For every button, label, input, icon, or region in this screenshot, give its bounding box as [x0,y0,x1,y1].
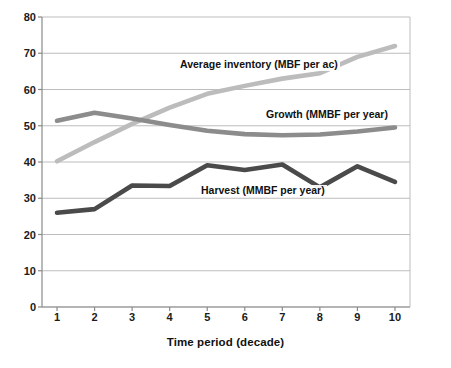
series-label-average-inventory: Average inventory (MBF per ac) [178,59,340,71]
y-tick-label: 30 [6,193,36,204]
x-tick-label: 9 [337,312,377,323]
y-tick-label: 0 [6,302,36,313]
y-tick-label: 50 [6,120,36,131]
y-tick-label: 70 [6,48,36,59]
x-axis-title: Time period (decade) [0,336,451,348]
series-label-harvest: Harvest (MMBF per year) [199,185,327,197]
x-tick-label: 8 [300,312,340,323]
x-tick-label: 2 [75,312,115,323]
y-tick-label: 60 [6,84,36,95]
series-label-growth: Growth (MMBF per year) [264,109,390,121]
x-tick-label: 4 [150,312,190,323]
x-tick-label: 1 [37,312,77,323]
x-tick-label: 7 [262,312,302,323]
line-chart: 01020304050607080 12345678910 Time perio… [0,0,451,368]
y-tick-label: 40 [6,157,36,168]
x-tick-label: 6 [225,312,265,323]
y-tick-label: 80 [6,12,36,23]
y-tick-label: 20 [6,229,36,240]
x-axis-tick-labels: 12345678910 [0,312,451,332]
y-tick-label: 10 [6,265,36,276]
x-tick-label: 5 [187,312,227,323]
x-tick-label: 3 [112,312,152,323]
x-tick-label: 10 [375,312,415,323]
